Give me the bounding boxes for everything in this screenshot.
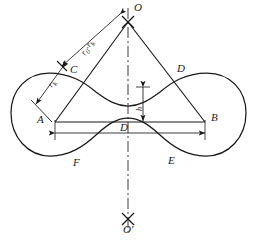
diagram-canvas: O O' A B C D E F r0-rk rk h D xyxy=(0,0,257,242)
label-dimension-h: h xyxy=(135,107,144,111)
label-point-f: F xyxy=(73,157,80,168)
label-point-c: C xyxy=(70,64,77,75)
label-point-b: B xyxy=(211,112,218,123)
triangle-side-oa xyxy=(55,22,128,122)
label-point-d: D xyxy=(177,63,185,74)
label-point-a: A xyxy=(37,114,44,125)
dimension-rk xyxy=(31,68,62,122)
label-point-o-prime: O' xyxy=(123,224,133,235)
label-point-e: E xyxy=(168,155,175,166)
label-dimension-d-width: D xyxy=(120,122,128,133)
label-point-o: O xyxy=(134,2,142,13)
dimension-d-width xyxy=(55,120,205,140)
